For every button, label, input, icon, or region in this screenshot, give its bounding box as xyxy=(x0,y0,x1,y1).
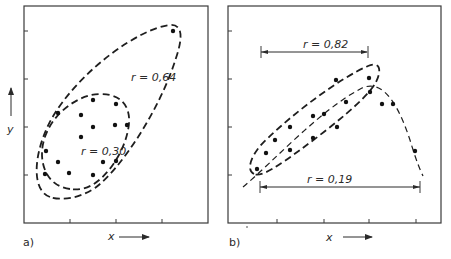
ellipse-r030 xyxy=(42,94,129,189)
panel-a: r = 0,64 r = 0,30 y x a) xyxy=(6,6,208,249)
panel-a-label: a) xyxy=(23,236,34,249)
panel-a-x-ticks xyxy=(70,219,162,223)
panel-a-frame xyxy=(24,6,208,223)
correlation-diagram: r = 0,64 r = 0,30 y x a) xyxy=(0,0,451,259)
panel-b-x-axis-label: x xyxy=(325,231,333,244)
label-r030: r = 0,30 xyxy=(81,145,126,158)
panel-b-data-points xyxy=(255,76,417,171)
panel-b-y-ticks xyxy=(228,31,232,175)
panel-b-label: b) xyxy=(229,236,240,249)
panel-b: r = 0,82 r = 0,19 x b) xyxy=(228,6,441,249)
y-axis-label: y xyxy=(6,123,14,136)
label-r064: r = 0,64 xyxy=(131,71,176,84)
label-r082: r = 0,82 xyxy=(303,38,348,51)
panel-a-x-axis-label: x xyxy=(107,230,115,243)
ellipse-r082 xyxy=(250,65,379,175)
label-r019: r = 0,19 xyxy=(307,173,352,186)
